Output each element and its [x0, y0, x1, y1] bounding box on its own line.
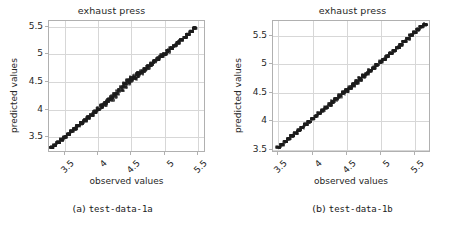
subplot-panel-b: exhaust press 3.544.555.53.544.555.5 obs… [227, 0, 454, 235]
plot-title: exhaust press [251, 5, 454, 16]
x-tick-label: 5.5 [409, 158, 426, 175]
caption-text: test-data-1a [89, 204, 153, 214]
x-tick-mark [312, 152, 313, 155]
y-tick-label: 3.5 [29, 131, 43, 141]
scatter-series [49, 21, 204, 151]
plot-title: exhaust press [0, 5, 227, 16]
y-tick-mark [269, 35, 272, 36]
y-tick-mark [45, 109, 48, 110]
x-tick-label: 4.5 [125, 158, 142, 175]
y-tick-label: 4.5 [253, 87, 267, 97]
caption-marker: (a) [72, 203, 85, 214]
x-tick-label: 5.5 [192, 158, 209, 175]
x-tick-mark [197, 152, 198, 155]
x-axis-title: observed values [48, 176, 205, 186]
x-tick-mark [64, 152, 65, 155]
plot-axes-a [48, 20, 205, 152]
y-tick-mark [45, 136, 48, 137]
x-tick-label: 4 [98, 158, 109, 169]
subplot-caption-b: (b)test-data-1b [251, 203, 454, 214]
x-tick-label: 4 [312, 158, 323, 169]
x-tick-mark [380, 152, 381, 155]
scatter-series [273, 21, 429, 151]
x-tick-label: 5 [165, 158, 176, 169]
y-tick-mark [45, 26, 48, 27]
y-axis-title: predicted values [9, 58, 19, 133]
y-tick-mark [269, 63, 272, 64]
y-axis-title: predicted values [233, 58, 243, 133]
caption-text: test-data-1b [329, 204, 393, 214]
x-tick-mark [277, 152, 278, 155]
x-tick-mark [97, 152, 98, 155]
y-tick-label: 4.5 [29, 76, 43, 86]
y-tick-label: 5.5 [29, 21, 43, 31]
figure: exhaust press 3.544.555.53.544.555.5 obs… [0, 0, 454, 235]
y-tick-label: 5.5 [253, 30, 267, 40]
x-tick-label: 5 [381, 158, 392, 169]
x-tick-label: 4.5 [340, 158, 357, 175]
subplot-caption-a: (a)test-data-1a [0, 203, 227, 214]
y-tick-mark [45, 53, 48, 54]
plot-axes-b [272, 20, 430, 152]
y-tick-label: 3.5 [253, 144, 267, 154]
x-tick-mark [130, 152, 131, 155]
x-tick-mark [164, 152, 165, 155]
y-tick-mark [269, 149, 272, 150]
caption-marker: (b) [312, 203, 325, 214]
y-tick-mark [45, 81, 48, 82]
x-tick-label: 3.5 [272, 158, 289, 175]
x-tick-mark [414, 152, 415, 155]
y-tick-label: 5 [261, 58, 267, 68]
y-tick-label: 4 [37, 104, 43, 114]
x-tick-label: 3.5 [59, 158, 76, 175]
subplot-panel-a: exhaust press 3.544.555.53.544.555.5 obs… [0, 0, 227, 235]
y-tick-label: 5 [37, 48, 43, 58]
x-axis-title: observed values [272, 176, 430, 186]
y-tick-mark [269, 92, 272, 93]
x-tick-mark [346, 152, 347, 155]
y-tick-label: 4 [261, 115, 267, 125]
y-tick-mark [269, 120, 272, 121]
